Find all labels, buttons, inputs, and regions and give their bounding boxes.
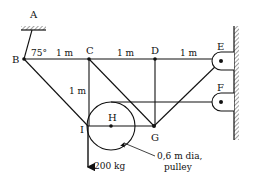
pin-support-f bbox=[212, 93, 234, 111]
dim-ci: 1 m bbox=[69, 86, 87, 96]
label-h: H bbox=[108, 112, 117, 123]
member-ge bbox=[154, 61, 221, 126]
label-a: A bbox=[29, 9, 38, 20]
angle-label: 75° bbox=[31, 48, 47, 58]
label-i: I bbox=[80, 124, 84, 135]
pulley-leader-line bbox=[124, 143, 155, 156]
label-g: G bbox=[151, 132, 159, 143]
pin-support-e bbox=[212, 52, 234, 70]
support-a bbox=[21, 26, 46, 30]
truss-diagram: A B C D E F G H I 75° 1 m 1 m 1 m 1 m bbox=[0, 0, 255, 183]
joint-c bbox=[87, 57, 91, 61]
dim-de: 1 m bbox=[180, 48, 198, 58]
dim-bc: 1 m bbox=[56, 48, 74, 58]
wall bbox=[234, 26, 239, 140]
load-label: 200 kg bbox=[94, 161, 125, 171]
joint-g bbox=[152, 124, 156, 128]
dim-cd: 1 m bbox=[117, 48, 135, 58]
label-f: F bbox=[217, 82, 224, 93]
label-d: D bbox=[151, 45, 159, 56]
joint-d bbox=[153, 57, 157, 61]
pulley-note-line2: pulley bbox=[164, 162, 193, 172]
label-c: C bbox=[86, 45, 94, 56]
joint-h bbox=[109, 124, 113, 128]
member-cg bbox=[89, 59, 154, 126]
label-e: E bbox=[217, 41, 224, 52]
joint-b bbox=[22, 57, 26, 61]
label-b: B bbox=[12, 54, 19, 65]
pulley-note-line1: 0,6 m dia, bbox=[157, 151, 202, 161]
